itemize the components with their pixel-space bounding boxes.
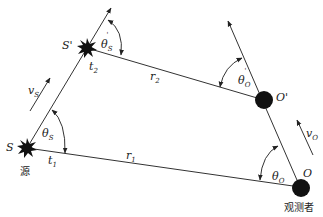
label-theta-o-prime: θO'	[238, 74, 252, 89]
doppler-diagram: S 源 t1 θS vS S' t2 θS' r2 r1 θO' O' vO θ…	[0, 0, 323, 217]
label-theta-o: θO	[272, 171, 284, 185]
observer-dot	[292, 179, 310, 197]
source-star-icon	[17, 138, 37, 158]
label-r2: r2	[150, 71, 160, 85]
label-v-s: vS	[28, 85, 39, 99]
label-r1: r1	[126, 150, 136, 164]
label-O: O	[303, 168, 312, 179]
label-t1: t1	[48, 155, 57, 169]
observer-moved-dot	[255, 91, 273, 109]
theta-s-arc	[52, 110, 65, 153]
label-theta-s-prime: θS'	[101, 38, 114, 53]
label-observer-caption: 观测者	[284, 203, 314, 213]
label-source-caption: 源	[20, 167, 30, 177]
source-trajectory-line	[27, 8, 111, 148]
label-t2: t2	[89, 61, 98, 75]
label-S: S	[6, 142, 14, 153]
label-v-o: vO	[306, 128, 318, 142]
label-O-prime: O'	[276, 92, 288, 103]
source-moved-star-icon	[77, 38, 97, 58]
r1-line	[27, 148, 300, 187]
label-theta-s: θS	[42, 128, 53, 142]
label-S-prime: S'	[62, 40, 73, 51]
